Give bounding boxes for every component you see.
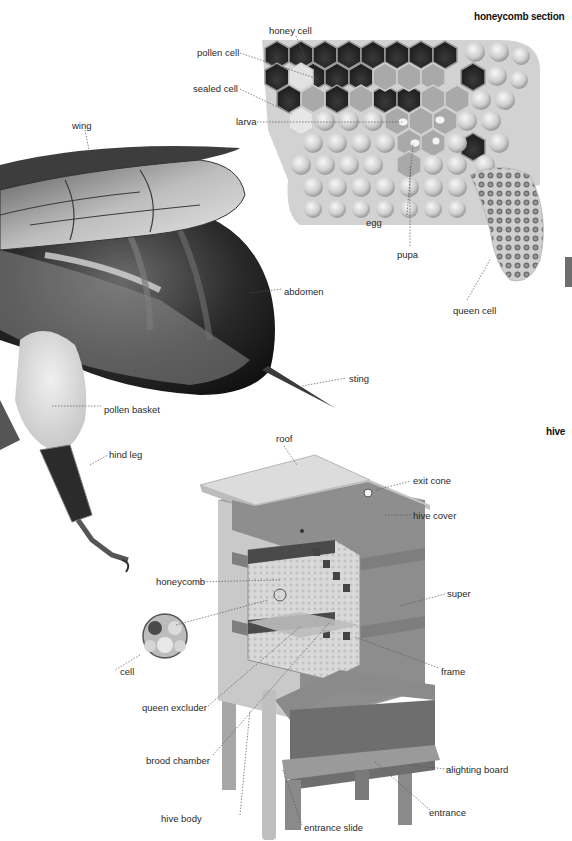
label-queen-excluder: queen excluder bbox=[142, 702, 207, 713]
label-honeycomb: honeycomb bbox=[156, 576, 205, 587]
label-hind-leg: hind leg bbox=[109, 449, 142, 460]
label-brood-chamber: brood chamber bbox=[146, 755, 210, 766]
label-queen-cell: queen cell bbox=[453, 305, 496, 316]
label-pollen-cell: pollen cell bbox=[197, 47, 239, 58]
label-sealed-cell: sealed cell bbox=[193, 83, 238, 94]
label-frame: frame bbox=[441, 666, 465, 677]
label-entrance-slide: entrance slide bbox=[304, 822, 363, 833]
label-cell: cell bbox=[120, 666, 134, 677]
honeycomb-illustration bbox=[262, 40, 543, 281]
label-wing: wing bbox=[72, 120, 92, 131]
label-egg: egg bbox=[366, 217, 382, 228]
hive-section-title: hive bbox=[546, 426, 565, 437]
label-abdomen: abdomen bbox=[284, 286, 324, 297]
label-pupa: pupa bbox=[397, 249, 418, 260]
label-hive-cover: hive cover bbox=[413, 510, 456, 521]
page-edge-tab bbox=[565, 257, 572, 287]
hive-illustration bbox=[143, 455, 440, 840]
label-super: super bbox=[447, 588, 471, 599]
label-honey-cell: honey cell bbox=[269, 25, 312, 36]
label-exit-cone: exit cone bbox=[413, 475, 451, 486]
label-alighting-board: alighting board bbox=[446, 764, 508, 775]
label-pollen-basket: pollen basket bbox=[104, 404, 160, 415]
label-hive-body: hive body bbox=[161, 813, 202, 824]
label-entrance: entrance bbox=[429, 807, 466, 818]
label-larva: larva bbox=[236, 116, 257, 127]
label-sting: sting bbox=[349, 373, 369, 384]
honeycomb-section-title: honeycomb section bbox=[474, 11, 565, 22]
label-roof: roof bbox=[276, 433, 292, 444]
